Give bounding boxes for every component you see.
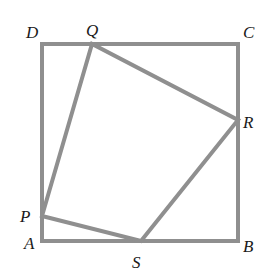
geometry-figure: A B C D P Q R S: [0, 0, 271, 278]
label-q: Q: [86, 21, 98, 40]
square-abcd: [42, 44, 238, 241]
quadrilateral-pqrs: [42, 44, 238, 241]
diagram-canvas: A B C D P Q R S: [0, 0, 271, 278]
label-c: C: [243, 23, 255, 42]
label-a: A: [23, 234, 35, 253]
label-b: B: [243, 237, 254, 256]
label-r: R: [242, 113, 254, 132]
label-s: S: [132, 253, 141, 272]
label-d: D: [25, 23, 39, 42]
label-p: P: [19, 207, 30, 226]
